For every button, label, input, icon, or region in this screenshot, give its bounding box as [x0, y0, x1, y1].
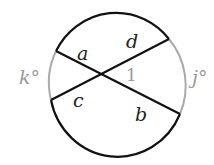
label-a: a — [77, 42, 88, 64]
left-arc-k — [49, 51, 56, 100]
label-angle-1: 1 — [126, 65, 137, 85]
label-j: j° — [188, 66, 207, 88]
label-d: d — [126, 30, 138, 52]
label-c: c — [73, 89, 84, 111]
right-arc-j — [169, 39, 186, 114]
label-b: b — [135, 103, 147, 125]
label-k: k° — [19, 66, 40, 88]
chord-2 — [51, 39, 169, 100]
chord-diagram: a d 1 c b k° j° — [0, 0, 214, 165]
bottom-arc — [51, 100, 180, 157]
top-arc — [56, 13, 169, 51]
